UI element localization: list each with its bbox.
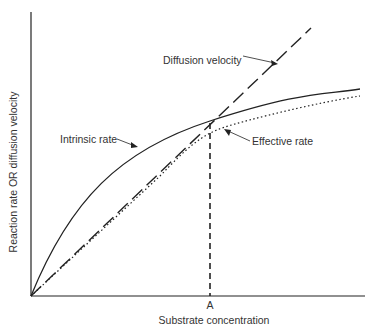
y-axis-label: Reaction rate OR diffusion velocity [7, 91, 19, 253]
diffusion-velocity-line [31, 28, 311, 296]
effective-arrow-icon [224, 129, 250, 141]
intrinsic-rate-label: Intrinsic rate [60, 133, 117, 145]
chart-canvas: Diffusion velocity Intrinsic rate Effect… [0, 0, 375, 330]
x-axis-label: Substrate concentration [159, 314, 270, 326]
intrinsic-rate-curve [31, 89, 360, 296]
diffusion-arrow-icon [243, 56, 278, 66]
intrinsic-arrow-icon [117, 139, 138, 148]
x-tick-a: A [206, 299, 213, 311]
diffusion-velocity-label: Diffusion velocity [163, 54, 242, 66]
effective-rate-label: Effective rate [252, 135, 313, 147]
